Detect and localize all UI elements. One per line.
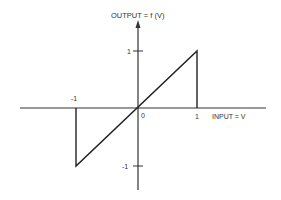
y-axis-arrow-icon: [136, 20, 141, 28]
y-tick-label-1: 1: [127, 48, 131, 55]
y-axis-label: OUTPUT = f (V): [111, 12, 164, 20]
x-tick-label-1: 1: [195, 113, 199, 120]
y-tick-label-neg1: -1: [122, 163, 128, 170]
x-tick-label-neg1: -1: [71, 95, 77, 102]
origin-label: 0: [141, 112, 145, 119]
transfer-function-diagram: OUTPUT = f (V) INPUT = V -1 1 1 -1 0: [0, 0, 281, 200]
plot-canvas: [0, 0, 281, 200]
x-axis-label: INPUT = V: [212, 113, 246, 120]
